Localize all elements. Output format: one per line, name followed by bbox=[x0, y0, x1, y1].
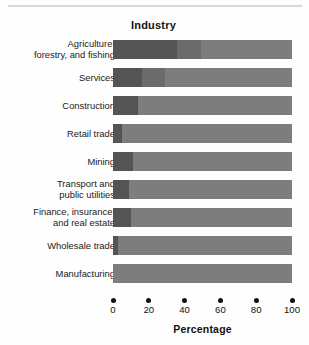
bar-segment bbox=[113, 180, 129, 199]
bar-row: Retail trade bbox=[0, 122, 309, 150]
bar-row: Transport andpublic utilities bbox=[0, 178, 309, 206]
x-tick-label: 100 bbox=[272, 304, 309, 315]
x-tick-marker bbox=[111, 298, 116, 303]
bar-row-label: Manufacturing bbox=[9, 262, 115, 284]
x-axis: 020406080100 bbox=[0, 298, 309, 312]
bar-row-label: Transport andpublic utilities bbox=[9, 178, 115, 200]
x-tick-marker bbox=[146, 298, 151, 303]
x-axis-title: Percentage bbox=[113, 323, 292, 335]
bar-row-label: Retail trade bbox=[9, 122, 115, 144]
chart-figure: Industry Agriculture,forestry, and fishi… bbox=[0, 0, 309, 345]
bar-segment bbox=[118, 236, 292, 255]
stacked-bar bbox=[113, 68, 292, 87]
bar-segment bbox=[113, 264, 292, 283]
x-tick-label: 20 bbox=[129, 304, 169, 315]
bar-row: Construction bbox=[0, 94, 309, 122]
bar-segment bbox=[129, 180, 292, 199]
bar-row: Manufacturing bbox=[0, 262, 309, 290]
bar-row-label: Agriculture,forestry, and fishing bbox=[9, 38, 115, 60]
category-axis-header: Industry bbox=[64, 19, 176, 31]
stacked-bar bbox=[113, 208, 292, 227]
stacked-bar bbox=[113, 264, 292, 283]
bar-segment bbox=[113, 68, 142, 87]
bar-row: Agriculture,forestry, and fishing bbox=[0, 38, 309, 66]
bar-row: Finance, insurance,and real estate bbox=[0, 206, 309, 234]
bar-row: Wholesale trade bbox=[0, 234, 309, 262]
bar-segment bbox=[113, 96, 138, 115]
x-tick-label: 0 bbox=[93, 304, 133, 315]
bar-rows: Agriculture,forestry, and fishingService… bbox=[0, 38, 309, 290]
bar-segment bbox=[122, 124, 292, 143]
bar-segment bbox=[113, 40, 177, 59]
bar-segment bbox=[113, 124, 122, 143]
bar-row-label: Services bbox=[9, 66, 115, 88]
bar-segment bbox=[201, 40, 292, 59]
bar-segment bbox=[131, 208, 292, 227]
x-tick-marker bbox=[290, 298, 295, 303]
stacked-bar bbox=[113, 152, 292, 171]
stacked-bar bbox=[113, 96, 292, 115]
stacked-bar bbox=[113, 236, 292, 255]
x-tick-marker bbox=[254, 298, 259, 303]
bar-row-label: Mining bbox=[9, 150, 115, 172]
x-tick-marker bbox=[218, 298, 223, 303]
bar-segment bbox=[165, 68, 292, 87]
bar-row-label: Construction bbox=[9, 94, 115, 116]
stacked-bar bbox=[113, 180, 292, 199]
stacked-bar bbox=[113, 40, 292, 59]
header-divider bbox=[8, 5, 302, 7]
bar-segment bbox=[142, 68, 165, 87]
bar-row: Mining bbox=[0, 150, 309, 178]
bar-segment bbox=[113, 152, 133, 171]
bar-segment bbox=[177, 40, 200, 59]
stacked-bar bbox=[113, 124, 292, 143]
x-tick-label: 60 bbox=[200, 304, 240, 315]
x-tick-label: 40 bbox=[165, 304, 205, 315]
bar-row-label: Finance, insurance,and real estate bbox=[9, 206, 115, 228]
bar-row-label: Wholesale trade bbox=[9, 234, 115, 256]
bar-segment bbox=[113, 208, 131, 227]
x-tick-marker bbox=[182, 298, 187, 303]
bar-segment bbox=[133, 152, 292, 171]
bar-row: Services bbox=[0, 66, 309, 94]
x-tick-label: 80 bbox=[236, 304, 276, 315]
bar-segment bbox=[138, 96, 292, 115]
